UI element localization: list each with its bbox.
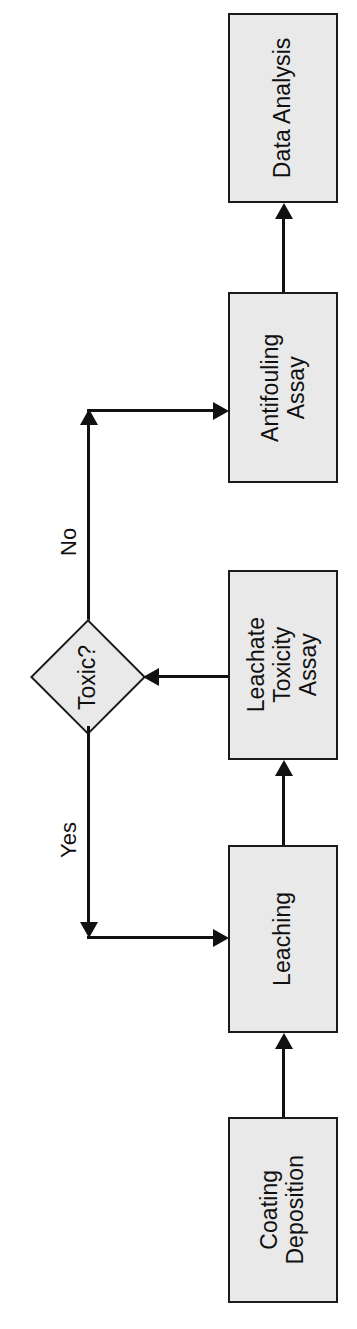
node-leachate-toxicity-assay-line-1: Leachate	[244, 617, 270, 712]
edge-label-no: No	[56, 528, 82, 556]
node-antifouling-assay-line-2: Assay	[283, 333, 309, 442]
node-toxic-decision[interactable]: Toxic?	[47, 636, 129, 718]
node-coating-deposition-line-2: Deposition	[283, 1155, 309, 1265]
edge-leachate-to-toxic-line	[158, 675, 228, 678]
edge-no-horizontal-line	[87, 409, 224, 412]
edge-yes-horizontal-line	[87, 936, 224, 939]
node-data-analysis-line-1: Data Analysis	[270, 38, 296, 179]
node-data-analysis-label: Data Analysis	[270, 38, 296, 179]
node-leaching-line-1: Leaching	[270, 892, 296, 986]
node-leachate-toxicity-assay-label: Leachate Toxicity Assay	[244, 617, 321, 712]
node-antifouling-assay-line-1: Antifouling	[257, 333, 283, 442]
edge-antifouling-to-data-analysis-line	[282, 218, 285, 292]
node-leachate-toxicity-assay[interactable]: Leachate Toxicity Assay	[228, 570, 338, 760]
node-leachate-toxicity-assay-line-3: Assay	[296, 617, 322, 712]
node-toxic-decision-text: Toxic?	[74, 644, 101, 709]
node-leaching[interactable]: Leaching	[228, 845, 338, 1033]
node-antifouling-assay[interactable]: Antifouling Assay	[228, 292, 338, 483]
edge-leachate-to-toxic-arrowhead	[143, 668, 159, 686]
edge-coating-to-leaching-arrowhead	[275, 1033, 293, 1049]
flowchart-canvas: Data Analysis Antifouling Assay No Toxic…	[0, 0, 357, 1329]
node-leachate-toxicity-assay-line-2: Toxicity	[270, 617, 296, 712]
node-antifouling-assay-label: Antifouling Assay	[257, 333, 309, 442]
node-coating-deposition-label: Coating Deposition	[257, 1155, 309, 1265]
edge-leaching-to-leachate-line	[282, 775, 285, 845]
node-coating-deposition[interactable]: Coating Deposition	[228, 1117, 338, 1303]
edge-label-yes: Yes	[56, 822, 82, 858]
edge-antifouling-to-data-analysis-arrowhead	[275, 203, 293, 219]
edge-yes-into-leaching-arrowhead	[213, 929, 229, 947]
edge-leaching-to-leachate-arrowhead	[275, 760, 293, 776]
edge-no-into-antifouling-arrowhead	[213, 402, 229, 420]
node-toxic-decision-label: Toxic?	[47, 636, 129, 718]
edge-yes-vertical-line	[87, 726, 90, 922]
node-coating-deposition-line-1: Coating	[257, 1155, 283, 1265]
node-leaching-label: Leaching	[270, 892, 296, 986]
edge-no-vertical-line	[87, 424, 90, 628]
node-data-analysis[interactable]: Data Analysis	[228, 13, 338, 203]
edge-coating-to-leaching-line	[282, 1048, 285, 1118]
